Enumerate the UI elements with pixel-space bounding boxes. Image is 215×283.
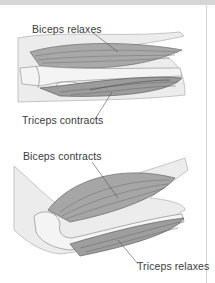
label-biceps-relaxes: Biceps relaxes [32, 23, 102, 35]
frame-divider [206, 5, 207, 283]
label-triceps-contracts: Triceps contracts [22, 114, 103, 126]
panel-extended-arm: Biceps relaxes Triceps contracts [0, 0, 206, 140]
label-biceps-contracts: Biceps contracts [23, 150, 102, 162]
panel-flexed-arm: Biceps contracts Triceps relaxes [0, 140, 206, 283]
label-triceps-relaxes: Triceps relaxes [137, 260, 209, 272]
